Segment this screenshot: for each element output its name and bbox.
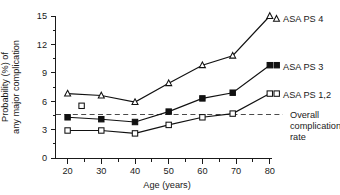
stray-open-square-marker [79,103,84,108]
x-tick-label-70: 70 [231,166,241,176]
x-tick-label-60: 60 [197,166,207,176]
annotation-label-asa-ps-1-2: ASA PS 1,2 [283,90,331,100]
x-axis: 20 30 40 50 60 70 80 Age (years) [56,159,275,191]
series-asa-ps-4-marker [166,80,172,86]
annotation-label-overall-line3: rate [290,132,306,142]
series-asa-ps-4-line [68,16,270,102]
x-tick-label-30: 30 [96,166,106,176]
stray-data-point [79,103,84,108]
series-asa-ps-1-2-marker [99,128,104,133]
series-asa-ps-1-2-marker [267,91,272,96]
y-axis-title-line2: any major complication [11,40,21,134]
y-tick-label-15: 15 [37,11,47,21]
y-axis: 15 12 9 6 3 0 [37,11,56,163]
series-asa-ps-1-2-marker [132,131,137,136]
series-asa-ps-3-marker [99,117,104,122]
series-asa-ps-3-marker [132,119,137,124]
x-tick-label-40: 40 [130,166,140,176]
series-asa-ps-1-2-marker [166,122,171,127]
line-chart: 15 12 9 6 3 0 Probability (%) of any maj… [0,0,340,195]
series-asa-ps-1-2-marker [65,128,70,133]
series-asa-ps-4 [65,13,273,105]
series-asa-ps-1-2-marker [200,115,205,120]
x-tick-label-20: 20 [62,166,72,176]
annotation-label-asa-ps-4: ASA PS 4 [283,14,323,24]
y-tick-label-0: 0 [42,153,47,163]
x-axis-title: Age (years) [143,180,191,190]
series-asa-ps-4-marker [267,13,273,19]
y-axis-title: Probability (%) of any major complicatio… [0,40,21,134]
series-asa-ps-3-marker [200,96,205,101]
annotation-marker-asa-ps-4 [274,16,280,22]
series-asa-ps-3 [65,63,273,125]
y-axis-title-line1: Probability (%) of [0,52,10,122]
annotation-label-overall-line1: Overall [290,110,319,120]
series-asa-ps-1-2-marker [230,111,235,116]
series-asa-ps-3-marker [230,90,235,95]
y-tick-label-9: 9 [42,68,47,78]
series-asa-ps-3-marker [166,109,171,114]
series-asa-ps-3-marker [65,115,70,120]
annotation-label-overall-line2: complication [290,121,340,131]
chart-figure: 15 12 9 6 3 0 Probability (%) of any maj… [0,0,340,195]
annotation-marker-asa-ps-3 [274,63,279,68]
y-tick-label-6: 6 [42,97,47,107]
annotation-label-asa-ps-3: ASA PS 3 [283,62,323,72]
x-tick-label-50: 50 [164,166,174,176]
y-tick-label-12: 12 [37,40,47,50]
series-annotations: ASA PS 4 ASA PS 3 ASA PS 1,2 Overall com… [274,14,340,142]
y-tick-label-3: 3 [42,125,47,135]
x-tick-label-80: 80 [265,166,275,176]
annotation-marker-asa-ps-1-2 [274,91,279,96]
series-asa-ps-3-marker [267,63,272,68]
